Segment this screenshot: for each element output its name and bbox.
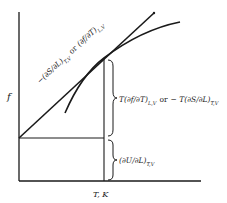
upper-brace	[108, 60, 117, 136]
lower-brace	[108, 140, 117, 180]
tangent-label: −(∂S/∂L)T,Vor(∂f/∂T)L,V	[35, 19, 107, 87]
svg-text:−(∂S/∂L)T,Vor(∂f/∂T)L,V: −(∂S/∂L)T,Vor(∂f/∂T)L,V	[35, 19, 107, 87]
upper-brace-label: T(∂f/∂T)L,Vor− T(∂S/∂L)T,V	[119, 95, 220, 106]
tangent-label-part1: −(∂S/∂L)	[35, 57, 65, 86]
lower-brace-label: (∂U/∂L)T,V	[119, 156, 156, 167]
y-axis-label: f	[6, 91, 13, 102]
diagram-canvas: f T, K −(∂S/∂L)T,Vor(∂f/∂T)L,V T(∂f/∂T)L…	[0, 0, 227, 203]
x-axis-label: T, K	[93, 190, 109, 199]
tangent-endpoint	[153, 12, 155, 14]
